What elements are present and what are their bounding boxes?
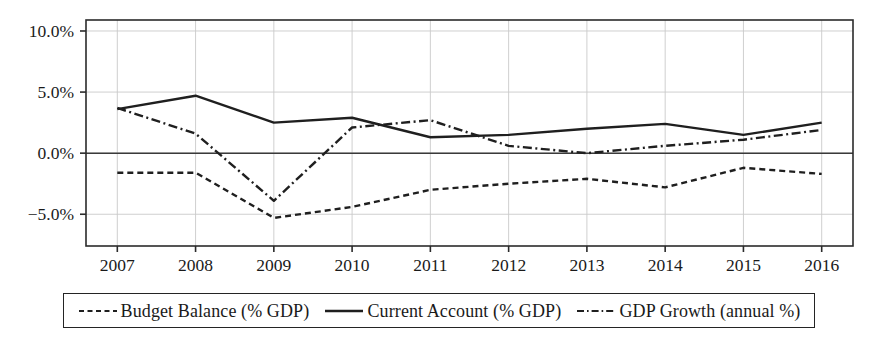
xtick-label-6: 2013	[569, 255, 604, 275]
y-axis-ticks	[80, 31, 86, 214]
legend-label-gdp-growth: GDP Growth (annual %)	[619, 302, 800, 320]
xtick-label-7: 2014	[648, 255, 683, 275]
ytick-label-2: 0.0%	[38, 143, 74, 163]
x-axis-ticks	[117, 246, 821, 252]
ytick-label-1: 5.0%	[38, 82, 74, 102]
xtick-label-2: 2009	[256, 255, 291, 275]
legend-label-budget-balance: Budget Balance (% GDP)	[121, 302, 310, 320]
xtick-label-4: 2011	[413, 255, 447, 275]
y-axis-tick-labels: 10.0%5.0%0.0%−5.0%	[28, 21, 74, 224]
ytick-label-3: −5.0%	[28, 204, 74, 224]
chart-legend: Budget Balance (% GDP) Current Account (…	[63, 293, 815, 328]
legend-item-current-account: Current Account (% GDP)	[324, 302, 561, 320]
xtick-label-3: 2010	[335, 255, 370, 275]
x-axis-tick-labels: 2007200820092010201120122013201420152016	[100, 255, 840, 275]
ytick-label-0: 10.0%	[29, 21, 74, 41]
legend-item-budget-balance: Budget Balance (% GDP)	[78, 302, 310, 320]
legend-label-current-account: Current Account (% GDP)	[367, 302, 561, 320]
legend-item-gdp-growth: GDP Growth (annual %)	[576, 302, 800, 320]
legend-swatch-dashed	[78, 305, 118, 317]
xtick-label-0: 2007	[100, 255, 135, 275]
xtick-label-8: 2015	[726, 255, 761, 275]
legend-swatch-solid	[324, 305, 364, 317]
xtick-label-1: 2008	[178, 255, 213, 275]
chart-figure: 10.0%5.0%0.0%−5.0% 200720082009201020112…	[0, 0, 879, 343]
line-chart: 10.0%5.0%0.0%−5.0% 200720082009201020112…	[0, 0, 879, 343]
xtick-label-9: 2016	[804, 255, 839, 275]
legend-swatch-dashdot	[576, 305, 616, 317]
xtick-label-5: 2012	[491, 255, 526, 275]
